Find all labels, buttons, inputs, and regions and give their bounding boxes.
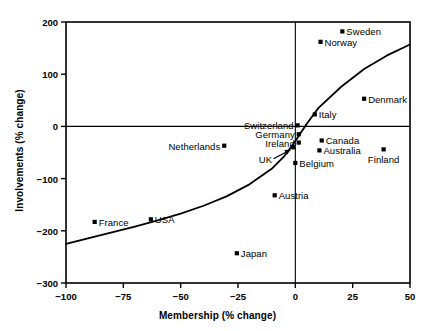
y-tick-label: −100 — [18, 173, 58, 184]
x-tick-label: −100 — [55, 291, 76, 302]
x-axis-title: Membership (% change) — [0, 310, 435, 321]
x-tick-label: −50 — [173, 291, 189, 302]
y-axis-title: Involvements (% change) — [14, 76, 25, 226]
data-point-marker-italy — [313, 112, 317, 116]
data-point-label-australia: Australia — [323, 145, 360, 156]
x-tick-label: 25 — [347, 291, 358, 302]
data-point-marker-belgium — [293, 161, 297, 165]
plot-canvas — [0, 0, 435, 331]
data-point-marker-netherlands — [222, 144, 226, 148]
data-point-label-japan: Japan — [241, 248, 267, 259]
x-tick-label: 50 — [405, 291, 416, 302]
y-tick-label: −300 — [18, 278, 58, 289]
x-tick-label: −25 — [230, 291, 246, 302]
x-tick-label: 0 — [293, 291, 298, 302]
data-point-marker-finland — [382, 147, 386, 151]
data-point-label-sweden: Sweden — [346, 26, 381, 37]
data-point-marker-canada — [320, 138, 324, 142]
data-point-marker-norway — [318, 40, 322, 44]
data-point-marker-japan — [235, 251, 239, 255]
data-point-label-finland: Finland — [368, 154, 400, 165]
data-point-label-netherlands: Netherlands — [168, 140, 220, 151]
data-point-label-france: France — [99, 216, 129, 227]
x-tick-label: −75 — [115, 291, 131, 302]
y-tick-label: −200 — [18, 225, 58, 236]
data-point-label-ireland: Ireland — [265, 137, 294, 148]
scatter-chart-figure: Membership (% change) Involvements (% ch… — [0, 0, 435, 331]
data-point-marker-denmark — [362, 97, 366, 101]
data-point-label-austria: Austria — [279, 190, 309, 201]
data-point-label-norway: Norway — [325, 36, 358, 47]
y-tick-label: 0 — [18, 121, 58, 132]
data-point-marker-austria — [273, 193, 277, 197]
data-point-marker-france — [93, 220, 97, 224]
data-point-label-denmark: Denmark — [368, 93, 407, 104]
data-point-marker-switzerland — [296, 123, 300, 127]
data-point-marker-sweden — [340, 29, 344, 33]
y-tick-label: 200 — [18, 17, 58, 28]
data-point-marker-ireland — [297, 140, 301, 144]
y-tick-label: 100 — [18, 69, 58, 80]
data-point-label-belgium: Belgium — [299, 157, 334, 168]
data-point-marker-usa — [149, 217, 153, 221]
data-point-marker-germany — [297, 132, 301, 136]
data-point-label-italy: Italy — [319, 109, 337, 120]
data-point-marker-australia — [317, 148, 321, 152]
data-point-label-usa: USA — [155, 214, 175, 225]
data-point-label-uk: UK — [259, 154, 272, 165]
